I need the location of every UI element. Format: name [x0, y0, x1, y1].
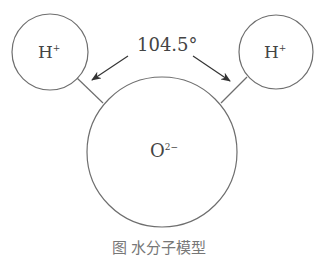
hydrogen-right-label: H+	[264, 42, 286, 62]
angle-arrow-left	[92, 56, 128, 80]
hydrogen-left-label: H+	[38, 42, 60, 62]
figure-caption: 图 水分子模型	[0, 236, 318, 257]
bond-right	[221, 77, 247, 103]
bond-left	[77, 78, 103, 103]
oxygen-label: O2−	[150, 140, 178, 161]
bond-angle-label: 104.5°	[137, 34, 198, 55]
angle-arrow-right	[193, 56, 230, 81]
